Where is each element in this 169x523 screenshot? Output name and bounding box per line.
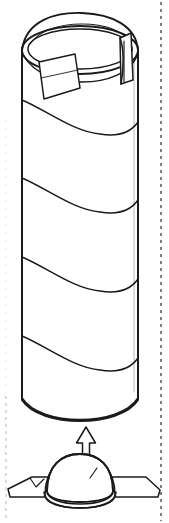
cylinder-silhouette <box>22 34 138 422</box>
patent-figure-root: Cylindrical container with dome base pat… <box>0 0 169 523</box>
rim-notch-group <box>120 33 133 84</box>
figure-canvas <box>0 0 169 523</box>
cylinder-body-group <box>22 34 138 422</box>
dome-base-unit <box>8 454 160 508</box>
dome-cap <box>47 454 113 502</box>
